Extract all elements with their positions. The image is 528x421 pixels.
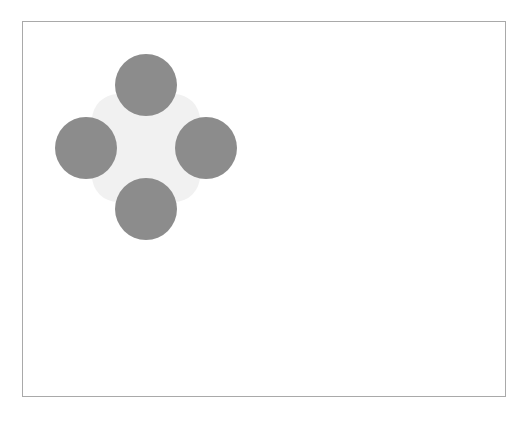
bottom-circle <box>115 178 177 240</box>
figure-svg <box>23 22 507 398</box>
left-circle <box>55 117 117 179</box>
right-circle <box>175 117 237 179</box>
top-circle <box>115 54 177 116</box>
canvas-border-frame <box>22 21 506 397</box>
figure-group <box>23 22 507 398</box>
